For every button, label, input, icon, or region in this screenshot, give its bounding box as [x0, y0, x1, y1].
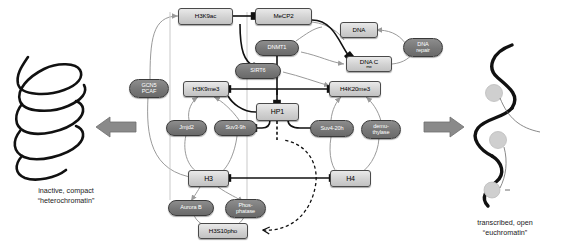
- node-demethylase-label-2: thylase: [362, 130, 400, 136]
- node-h3k9me3[interactable]: H3K9me3: [183, 81, 229, 97]
- node-jmjd2-label: Jmjd2: [167, 125, 206, 131]
- node-aurora-b[interactable]: Aurora B: [168, 200, 214, 216]
- node-demethylase[interactable]: demu- thylase: [361, 120, 401, 139]
- node-h3k9ac[interactable]: H3K9ac: [178, 8, 233, 25]
- node-gcn5-pcaf[interactable]: GCN5 PCAF: [129, 79, 169, 98]
- node-h4[interactable]: H4: [330, 170, 371, 187]
- node-dna-repair[interactable]: DNA repair: [403, 38, 443, 57]
- node-phosphatase-label-2: phatase: [226, 209, 265, 215]
- node-h4k20me3[interactable]: H4K20me3: [329, 81, 381, 97]
- node-hp1-label: HP1: [257, 108, 298, 115]
- node-aurora-b-label: Aurora B: [169, 205, 213, 211]
- node-h3s10pho-label: H3S10pho: [199, 228, 247, 234]
- node-jmjd2[interactable]: Jmjd2: [166, 120, 207, 136]
- node-suv39h-label: Suv3-9h: [215, 125, 256, 131]
- node-mecp2[interactable]: MeCP2: [255, 8, 312, 25]
- node-h3k9ac-label: H3K9ac: [179, 13, 232, 19]
- node-h3k9me3-label: H3K9me3: [184, 86, 228, 92]
- node-sirt6[interactable]: SIRT6: [235, 63, 281, 79]
- node-dna-cme[interactable]: DNA Cme: [346, 56, 392, 72]
- node-h3s10pho[interactable]: H3S10pho: [198, 223, 248, 239]
- node-h4-label: H4: [331, 175, 370, 182]
- node-suv420h[interactable]: Suv4-20h: [310, 120, 354, 137]
- node-dna-label: DNA: [341, 27, 377, 33]
- node-h3[interactable]: H3: [188, 170, 229, 187]
- node-h3-label: H3: [189, 175, 228, 182]
- diagram-canvas: H3K9ac MeCP2 DNA DNA repair DNMT1 SIRT6 …: [0, 0, 577, 250]
- node-dna-repair-label-2: repair: [404, 48, 442, 54]
- node-sirt6-label: SIRT6: [236, 68, 280, 74]
- node-mecp2-label: MeCP2: [256, 13, 311, 19]
- node-h4k20me3-label: H4K20me3: [330, 86, 380, 92]
- node-hp1[interactable]: HP1: [256, 103, 299, 121]
- node-pcaf-label: PCAF: [130, 89, 168, 95]
- node-suv420h-label: Suv4-20h: [311, 126, 353, 132]
- node-suv39h[interactable]: Suv3-9h: [214, 120, 257, 136]
- node-phosphatase[interactable]: Phos- phatase: [225, 199, 266, 218]
- node-dnmt1-label: DNMT1: [256, 45, 298, 51]
- node-dnmt1[interactable]: DNMT1: [255, 40, 299, 56]
- node-dna[interactable]: DNA: [340, 22, 378, 38]
- node-dna-cme-label: DNA Cme: [347, 59, 391, 70]
